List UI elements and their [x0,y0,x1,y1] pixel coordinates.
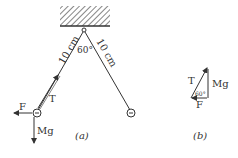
pendulum-diagram: 10 cm 10 cm 60° T F Mg (a) T Mg F 60° (b… [0,0,238,158]
caption-a: (a) [75,130,89,141]
label-10cm-right: 10 cm [94,37,119,70]
label-force-f: F [19,101,26,112]
label-tension: T [49,93,56,104]
caption-b: (b) [193,130,207,141]
triangle-label-f: F [196,99,203,110]
triangle-label-mg: Mg [212,78,229,89]
right-bob [127,109,135,117]
left-bob [33,109,41,117]
pivot-point [82,28,86,32]
label-weight: Mg [37,125,54,136]
triangle-label-angle: 60° [195,90,206,97]
label-apex-angle: 60° [77,45,93,55]
ceiling-support [60,6,110,26]
triangle-label-t: T [188,75,195,86]
